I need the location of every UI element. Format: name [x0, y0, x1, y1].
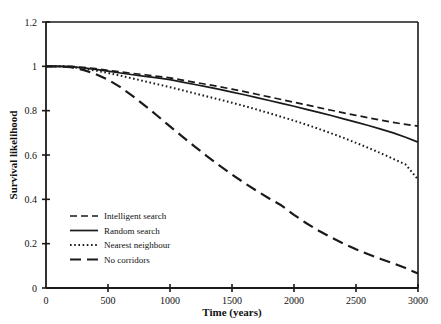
y-axis-title: Survival likelihood	[7, 111, 19, 200]
y-tick-label: 0.2	[25, 238, 38, 249]
survival-likelihood-line-chart: 00.20.40.60.811.2 0500100015002000250030…	[0, 0, 441, 324]
y-tick-label: 0.4	[25, 194, 38, 205]
legend-label-random-search: Random search	[104, 226, 160, 236]
x-tick-label: 3000	[408, 295, 428, 306]
y-tick-label: 0	[32, 283, 37, 294]
x-axis-title: Time (years)	[202, 306, 262, 319]
x-tick-label: 1000	[160, 295, 180, 306]
x-tick-label: 1500	[222, 295, 242, 306]
chart-background	[0, 0, 441, 324]
y-tick-label: 1	[32, 61, 37, 72]
y-tick-label: 1.2	[25, 17, 38, 28]
legend-label-intelligent-search: Intelligent search	[104, 211, 167, 221]
x-tick-label: 0	[44, 295, 49, 306]
x-tick-label: 500	[101, 295, 116, 306]
y-tick-label: 0.8	[25, 105, 38, 116]
figure-container: 00.20.40.60.811.2 0500100015002000250030…	[0, 0, 441, 324]
legend-label-nearest-neighbour: Nearest neighbour	[104, 240, 170, 250]
legend-label-no-corridors: No corridors	[104, 255, 150, 265]
x-tick-label: 2500	[346, 295, 366, 306]
y-tick-label: 0.6	[25, 150, 38, 161]
x-tick-label: 2000	[284, 295, 304, 306]
